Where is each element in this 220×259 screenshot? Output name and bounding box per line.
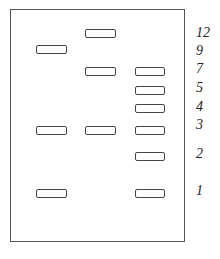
size-label-5: 5 [196, 81, 203, 95]
band-lane3-1 [135, 189, 165, 198]
band-lane3-2 [135, 152, 165, 161]
size-label-9: 9 [196, 44, 203, 58]
size-label-2: 2 [196, 147, 203, 161]
band-lane3-7 [135, 67, 165, 76]
band-lane3-4 [135, 104, 165, 113]
size-label-3: 3 [196, 118, 203, 132]
band-lane2-7 [85, 67, 116, 76]
band-lane1-9 [36, 45, 67, 54]
size-label-1: 1 [196, 184, 203, 198]
band-lane2-3 [85, 126, 116, 135]
band-lane2-12 [85, 29, 116, 38]
band-lane1-1 [36, 189, 67, 198]
band-lane3-3 [135, 126, 165, 135]
size-label-12: 12 [196, 26, 210, 40]
band-lane1-3 [36, 126, 67, 135]
size-label-7: 7 [196, 62, 203, 76]
size-label-4: 4 [196, 100, 203, 114]
band-lane3-5 [135, 86, 165, 95]
